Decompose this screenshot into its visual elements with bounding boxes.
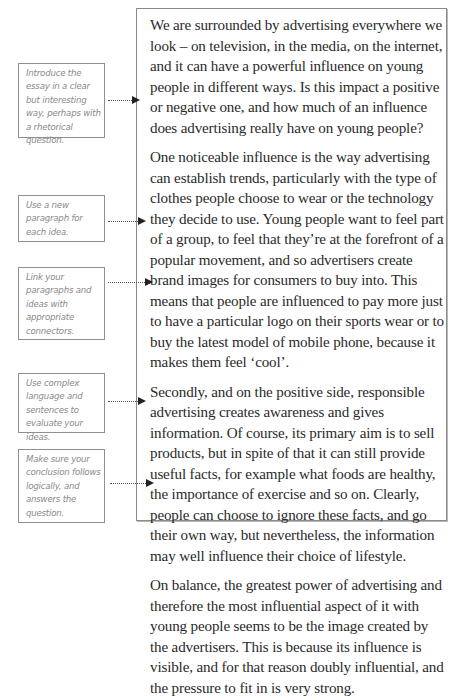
dotted-arrow-icon [108, 282, 145, 283]
essay-paragraph-trends: One noticeable influence is the way adve… [150, 147, 448, 373]
dotted-arrow-icon [110, 483, 146, 484]
essay-body: We are surrounded by advertising everywh… [150, 15, 448, 700]
dotted-arrow-icon [108, 401, 138, 402]
note-new-paragraph: Use a new paragraph for each idea. [18, 195, 105, 242]
note-link-paragraphs: Link your paragraphs and ideas with appr… [18, 267, 105, 340]
note-conclusion: Make sure your conclusion follows logica… [18, 449, 105, 523]
dotted-arrow-icon [108, 100, 132, 101]
note-introduce-essay: Introduce the essay in a clear but inter… [18, 63, 105, 138]
essay-paragraph-introduction: We are surrounded by advertising everywh… [150, 15, 448, 138]
essay-paragraph-information: Secondly, and on the positive side, resp… [150, 382, 448, 567]
dotted-arrow-icon [108, 221, 138, 222]
essay-paragraph-conclusion: On balance, the greatest power of advert… [150, 575, 448, 698]
note-complex-language: Use complex language and sentences to ev… [18, 373, 105, 433]
